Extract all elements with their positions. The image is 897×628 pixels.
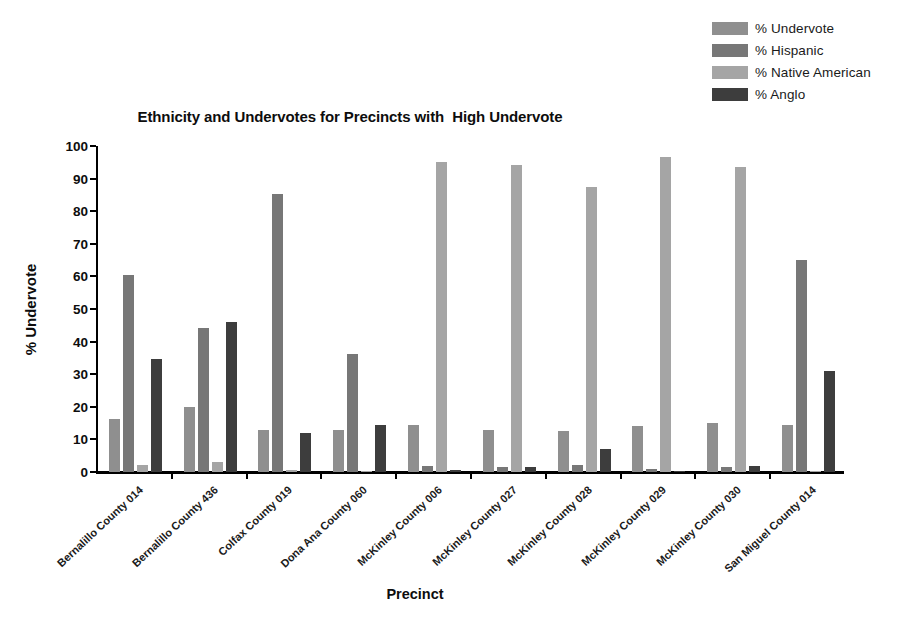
y-axis-tick-mark [90, 308, 96, 310]
bar [212, 462, 223, 472]
x-axis-tick-label: McKinley County 028 [366, 484, 594, 628]
x-axis-tick-label: Bernalillo County 436 [0, 484, 220, 628]
x-axis-ticks [96, 472, 844, 480]
legend-item: % Native American [712, 62, 892, 82]
bar [198, 328, 209, 472]
y-axis-tick-label: 30 [44, 367, 88, 382]
x-axis-tick-mark [171, 472, 173, 479]
x-axis-tick-label: Dona Ana County 060 [142, 484, 370, 628]
x-axis-tick-label: McKinley County 030 [516, 484, 744, 628]
y-axis-title: % Undervote [18, 146, 44, 472]
bar [300, 433, 311, 472]
plot-area: 0102030405060708090100 [96, 146, 844, 472]
legend-swatch-icon [712, 66, 748, 79]
y-axis-tick-label: 20 [44, 399, 88, 414]
bar [333, 430, 344, 472]
legend-item-label: % Anglo [755, 87, 805, 102]
y-axis-tick-label: 0 [44, 465, 88, 480]
bar [511, 165, 522, 472]
bar [272, 194, 283, 472]
bar-group [397, 146, 472, 472]
bar-group [248, 146, 323, 472]
bar [824, 371, 835, 472]
y-axis-title-text: % Undervote [23, 263, 40, 355]
y-axis-tick-label: 50 [44, 302, 88, 317]
y-axis-tick-mark [90, 438, 96, 440]
y-axis-tick-label: 80 [44, 204, 88, 219]
y-axis-tick-label: 10 [44, 432, 88, 447]
bar [660, 157, 671, 472]
bar [226, 322, 237, 472]
legend-item-label: % Native American [755, 65, 871, 80]
bar-group [622, 146, 697, 472]
bar [558, 431, 569, 472]
x-axis-tick-label: Colfax County 019 [67, 484, 295, 628]
y-axis-tick-mark [90, 341, 96, 343]
x-axis-tick-mark [694, 472, 696, 479]
y-axis-tick-label: 60 [44, 269, 88, 284]
bar-group [547, 146, 622, 472]
bar-group [98, 146, 173, 472]
legend-swatch-icon [712, 44, 748, 57]
legend-item: % Hispanic [712, 40, 892, 60]
bar [184, 407, 195, 472]
bar [436, 162, 447, 472]
bar [735, 167, 746, 472]
legend-swatch-icon [712, 22, 748, 35]
x-axis-tick-mark [545, 472, 547, 479]
bar [375, 425, 386, 472]
bar [707, 423, 718, 472]
bars-layer [98, 146, 844, 472]
bar [572, 465, 583, 472]
x-axis-tick-label: Bernalillo County 014 [0, 484, 145, 628]
bar [347, 354, 358, 472]
bar [137, 465, 148, 472]
y-axis-tick-mark [90, 243, 96, 245]
x-axis-tick-mark [470, 472, 472, 479]
y-axis-tick-mark [90, 275, 96, 277]
bar [632, 426, 643, 472]
x-axis-tick-mark [246, 472, 248, 479]
bar [796, 260, 807, 472]
legend-item: % Undervote [712, 18, 892, 38]
x-axis-tick-mark [395, 472, 397, 479]
bar [586, 187, 597, 472]
bar [258, 430, 269, 472]
bar-group [472, 146, 547, 472]
y-axis-tick-label: 100 [44, 139, 88, 154]
legend-item: % Anglo [712, 84, 892, 104]
bar-group [771, 146, 846, 472]
y-axis-tick-mark [90, 406, 96, 408]
chart-legend: % Undervote% Hispanic% Native American% … [712, 18, 892, 106]
x-axis-title: Precinct [0, 586, 830, 602]
x-axis-tick-mark [620, 472, 622, 479]
bar [151, 359, 162, 472]
y-axis-tick-mark [90, 210, 96, 212]
y-axis-tick-label: 40 [44, 334, 88, 349]
bar [408, 425, 419, 472]
x-axis-tick-mark [320, 472, 322, 479]
bar [782, 425, 793, 472]
bar-group [322, 146, 397, 472]
bar [123, 275, 134, 472]
bar [600, 449, 611, 472]
x-axis-tick-label: McKinley County 029 [441, 484, 669, 628]
bar [109, 419, 120, 472]
x-axis-tick-label: McKinley County 006 [217, 484, 445, 628]
legend-swatch-icon [712, 88, 748, 101]
y-axis-tick-mark [90, 373, 96, 375]
x-axis-tick-mark [769, 472, 771, 479]
y-axis-tick-label: 90 [44, 171, 88, 186]
y-axis-tick-label: 70 [44, 236, 88, 251]
legend-item-label: % Undervote [755, 21, 834, 36]
legend-item-label: % Hispanic [755, 43, 824, 58]
y-axis-tick-mark [90, 145, 96, 147]
x-axis-tick-label: San Miguel County 014 [591, 484, 819, 628]
chart-title: Ethnicity and Undervotes for Precincts w… [0, 108, 700, 125]
y-axis-tick-mark [90, 178, 96, 180]
x-axis-tick-label: McKinley County 027 [291, 484, 519, 628]
bar [483, 430, 494, 472]
bar-group [696, 146, 771, 472]
bar-group [173, 146, 248, 472]
